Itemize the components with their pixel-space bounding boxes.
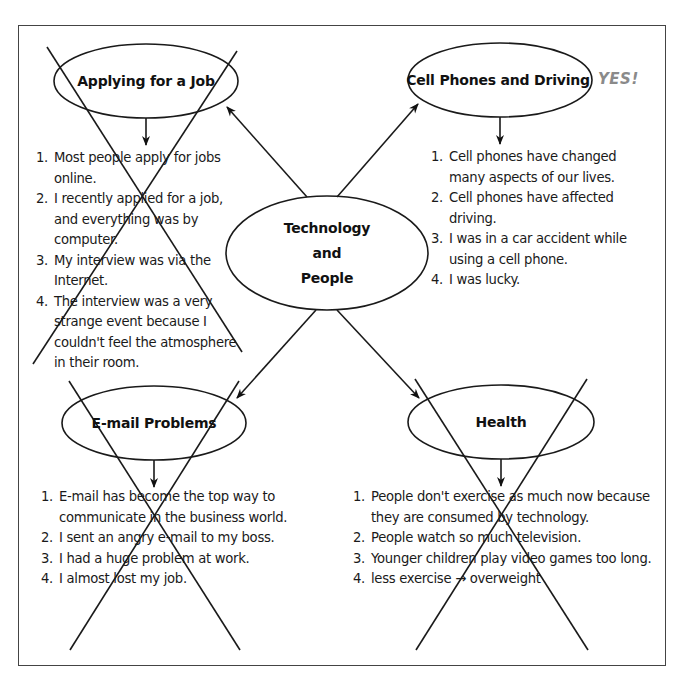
list-item: 3.My interview was via the Internet. xyxy=(36,251,241,292)
center-title: Technology and People xyxy=(284,216,371,291)
arrow-to-cellphones xyxy=(337,104,418,197)
list-item: 3.I was in a car accident while using a … xyxy=(431,229,651,270)
list-item: 2.I recently applied for a job, and ever… xyxy=(36,189,241,251)
arrow-to-email xyxy=(237,310,316,398)
list-item: 3.I had a huge problem at work. xyxy=(41,549,301,570)
list-item: 2.Cell phones have affected driving. xyxy=(431,188,651,229)
list-item: 2.People watch so much television. xyxy=(353,528,653,549)
list-item: 4.The interview was a very strange event… xyxy=(36,292,241,374)
list-email: 1.E-mail has become the top way to commu… xyxy=(41,487,301,590)
list-item: 4.I almost lost my job. xyxy=(41,569,301,590)
list-item: 4.I was lucky. xyxy=(431,270,651,291)
center-line-3: People xyxy=(284,266,371,291)
list-cellphones: 1.Cell phones have changed many aspects … xyxy=(431,147,651,291)
list-item: 3.Younger children play video games too … xyxy=(353,549,653,570)
list-item: 1.People don't exercise as much now beca… xyxy=(353,487,653,528)
list-item: 4.less exercise → overweight xyxy=(353,569,653,590)
list-item: 2.I sent an angry e-mail to my boss. xyxy=(41,528,301,549)
center-line-1: Technology xyxy=(284,216,371,241)
center-line-2: and xyxy=(284,241,371,266)
topic-title-cellphones: Cell Phones and Driving xyxy=(406,72,590,88)
arrow-to-health xyxy=(337,310,419,398)
topic-title-email: E-mail Problems xyxy=(92,415,217,431)
yes-annotation: YES! xyxy=(598,70,639,88)
topic-title-applying: Applying for a Job xyxy=(77,73,215,89)
list-item: 1.E-mail has become the top way to commu… xyxy=(41,487,301,528)
list-health: 1.People don't exercise as much now beca… xyxy=(353,487,653,590)
list-item: 1.Cell phones have changed many aspects … xyxy=(431,147,651,188)
list-item: 1.Most people apply for jobs online. xyxy=(36,148,241,189)
list-applying: 1.Most people apply for jobs online. 2.I… xyxy=(36,148,241,374)
topic-title-health: Health xyxy=(476,414,527,430)
